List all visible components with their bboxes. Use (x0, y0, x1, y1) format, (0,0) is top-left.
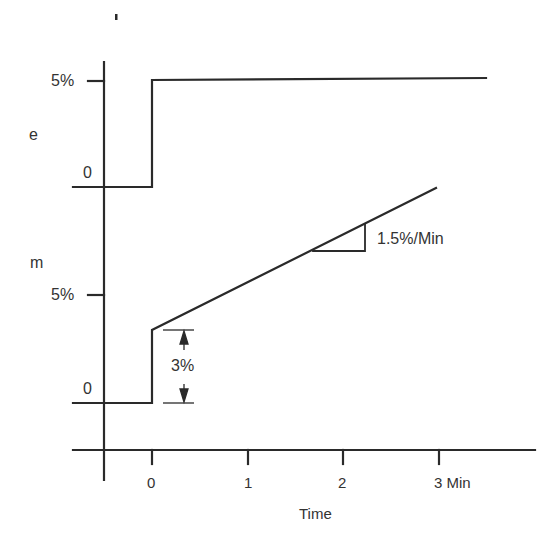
e-step-line (73, 78, 486, 187)
time-tick-label-0: 0 (147, 475, 155, 490)
m-zero-label: 0 (83, 381, 92, 397)
m-axis-label: m (30, 255, 43, 271)
m-five-label: 5% (51, 287, 74, 303)
scan-artifact-mark (115, 14, 118, 20)
time-tick-label-3: 3 Min (434, 475, 471, 490)
time-axis-title: Time (299, 506, 332, 521)
arrow-up-icon (180, 331, 188, 344)
jump-label: 3% (171, 358, 194, 374)
time-tick-label-2: 2 (338, 475, 346, 490)
pi-controller-response-diagram (0, 0, 560, 546)
e-axis-label: e (29, 127, 38, 143)
e-five-label: 5% (51, 73, 74, 89)
arrow-down-icon (180, 389, 188, 402)
time-tick-label-1: 1 (244, 475, 252, 490)
e-zero-label: 0 (83, 165, 92, 181)
m-response-line (73, 188, 436, 403)
slope-label: 1.5%/Min (377, 231, 444, 247)
